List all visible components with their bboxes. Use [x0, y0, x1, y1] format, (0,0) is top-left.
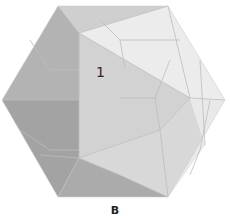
face-number-label: 1 — [96, 64, 105, 80]
face-left-upper — [2, 6, 79, 100]
icosahedron-figure — [0, 0, 230, 200]
figure-caption: B — [0, 204, 230, 217]
